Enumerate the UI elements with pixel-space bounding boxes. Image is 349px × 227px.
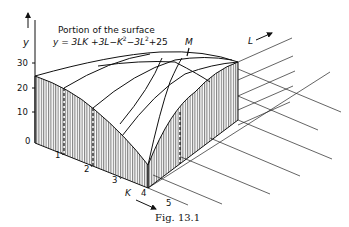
k-axis-label: K bbox=[125, 188, 132, 198]
k-tick-3: 3 bbox=[112, 175, 117, 185]
k-tick-5: 5 bbox=[166, 198, 171, 208]
y-tick-30: 30 bbox=[17, 58, 28, 68]
k-tick-1: 1 bbox=[55, 150, 60, 160]
front-wall bbox=[35, 76, 148, 188]
k-tick-4: 4 bbox=[141, 188, 146, 198]
max-point-label: M bbox=[185, 37, 193, 47]
figure-equation: y = 3LK +3L−K2−3L2+25 bbox=[52, 35, 168, 47]
y-tick-0: 0 bbox=[25, 136, 30, 146]
y-tick-20: 20 bbox=[17, 83, 28, 93]
l-axis-label: L bbox=[248, 36, 253, 46]
k-tick-2: 2 bbox=[84, 164, 89, 174]
surface-diagram: M y 30 20 10 0 1 2 3 4 5 K L Portion of … bbox=[0, 0, 349, 227]
k-axis-arrow bbox=[136, 200, 156, 209]
y-axis-label: y bbox=[22, 37, 30, 48]
y-tick-10: 10 bbox=[17, 107, 28, 117]
l-axis-arrow bbox=[256, 33, 272, 40]
right-wall bbox=[148, 62, 238, 188]
figure-canvas: M y 30 20 10 0 1 2 3 4 5 K L Portion of … bbox=[0, 0, 349, 227]
figure-title: Portion of the surface bbox=[58, 25, 155, 35]
figure-caption: Fig. 13.1 bbox=[155, 212, 200, 223]
